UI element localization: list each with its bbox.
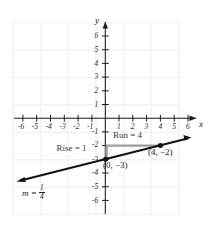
- point-label-y-intercept: (0, −3): [103, 161, 128, 170]
- x-axis-arrow: [190, 115, 197, 121]
- rise-label: Rise = 1: [57, 144, 87, 153]
- y-tick-label-neg3: -3: [92, 156, 98, 164]
- slope-fraction: 1 4: [39, 184, 45, 201]
- x-tick-label-6: 6: [186, 123, 190, 131]
- x-tick-label-neg3: -3: [59, 123, 65, 131]
- x-axis-name: x: [199, 120, 203, 129]
- graph-figure: -6 -5 -4 -3 -2 -1 1 2 3 4 5 6 6 5 4 3 2 …: [0, 0, 219, 226]
- y-tick-label-5: 5: [95, 46, 99, 54]
- y-tick-label-neg2: -2: [92, 141, 98, 149]
- x-tick-label-neg5: -5: [32, 123, 38, 131]
- x-tick-label-neg6: -6: [18, 123, 24, 131]
- point-label-second: (4, −2): [148, 148, 173, 157]
- x-tick-label-4: 4: [158, 123, 162, 131]
- x-tick-label-1: 1: [117, 123, 121, 131]
- x-tick-label-3: 3: [145, 123, 149, 131]
- slope-label: m = 1 4: [22, 184, 45, 201]
- x-tick-label-2: 2: [131, 123, 135, 131]
- line-arrow-right: [183, 135, 191, 140]
- slope-denominator: 4: [39, 193, 45, 201]
- y-tick-label-6: 6: [95, 32, 99, 40]
- y-tick-label-neg6: -6: [92, 197, 98, 205]
- slope-label-prefix: m =: [22, 188, 37, 198]
- x-tick-label-5: 5: [172, 123, 176, 131]
- y-tick-label-4: 4: [95, 60, 99, 68]
- y-tick-label-neg1: -1: [92, 128, 98, 136]
- y-tick-label-neg4: -4: [92, 169, 98, 177]
- line-arrow-left: [17, 177, 26, 182]
- y-tick-label-3: 3: [95, 73, 99, 81]
- y-axis-name: y: [95, 16, 99, 25]
- y-tick-label-2: 2: [95, 87, 99, 95]
- run-label: Run = 4: [113, 131, 142, 140]
- x-tick-label-neg4: -4: [46, 123, 52, 131]
- y-tick-label-1: 1: [95, 101, 99, 109]
- y-tick-label-neg5: -5: [92, 183, 98, 191]
- x-tick-label-neg2: -2: [73, 123, 79, 131]
